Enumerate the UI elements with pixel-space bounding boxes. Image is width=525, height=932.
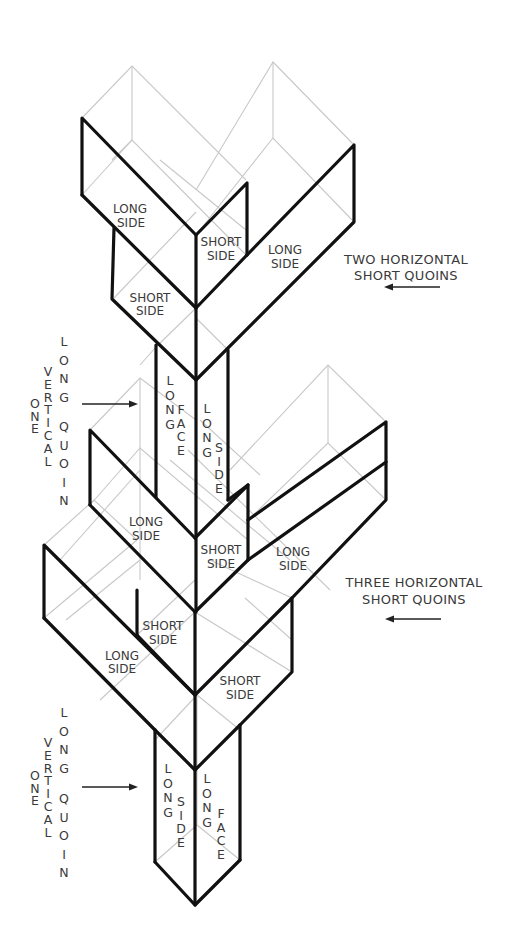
upper-vertical-annot-quoin: QUOIN [59,419,69,508]
upper-vertical-annot-long-letter: L [61,334,68,349]
lower-shaft-right-face-word1-letter: G [202,815,212,830]
lower-vertical-annot-one-letter: E [31,793,39,808]
hidden-construction-lines [44,62,386,862]
lower-shaft-left-face-word2-letter: E [177,835,185,850]
upper-vertical-annot-vertical-letter: L [45,454,52,469]
lower-tier-labels: SHORT SIDE LONG SIDE SHORT SIDE [105,619,261,702]
upper-vertical-annot-quoin-letter: I [62,475,66,490]
label-lower-left-long-2: SIDE [108,662,136,676]
upper-shaft-left-face-word2-letter: E [177,443,185,458]
upper-vertical-annot-vertical: VERTICAL [43,364,53,469]
label-middle-center-short-1: SHORT [201,543,243,557]
upper-vertical-annot-long-letter: O [59,353,69,368]
lower-vertical-annot-quoin-letter: N [59,865,68,880]
upper-vertical-annot-quoin-letter: Q [59,419,69,434]
upper-annotation-line1: TWO HORIZONTAL [343,252,469,267]
lower-shaft-left-face-word2: SIDE [176,794,186,850]
arrow-left-icon [384,284,393,291]
label-lower-right-short-1: SHORT [220,674,262,688]
upper-shaft-right-face-word1: LONG [202,401,212,460]
label-upper-left-long-1: LONG [113,202,147,216]
label-lower-left-long-1: LONG [105,649,139,663]
upper-vertical-annot-quoin-letter: N [59,493,68,508]
arrow-right-icon [129,784,138,791]
lower-shaft-right-face-word2-letter: E [217,847,225,862]
lower-vertical-annot-quoin-letter: Q [59,791,69,806]
label-middle-left-long-1: LONG [129,515,163,529]
upper-vertical-arrow [82,401,138,408]
lower-annotation-line1: THREE HORIZONTAL [345,575,483,590]
label-upper-right-long-1: LONG [268,243,302,257]
upper-shaft-right-face-word1-letter: O [202,416,212,431]
upper-shaft-left-face-word1-letter: N [165,402,174,417]
label-middle-right-long-1: LONG [276,545,310,559]
upper-shaft-right-face-word1-letter: L [204,401,211,416]
upper-shaft-left-face-word2: FACE [177,402,186,458]
lower-vertical-annot-long-letter: G [59,761,69,776]
label-lower-center-short-1: SHORT [143,619,185,633]
lower-vertical-annot-long: LONG [59,705,69,776]
label-upper-left-short-2: SIDE [136,304,164,318]
lower-shaft-left-face-word1: LONG [163,761,173,820]
lower-annotation-line2: SHORT QUOINS [362,592,466,607]
lower-shaft-left-face-word1-letter: O [163,776,173,791]
upper-shaft-right-face-word1-letter: N [202,430,211,445]
upper-shaft-left-face-word1-letter: O [165,388,175,403]
upper-vertical-annot-long: LONG [59,334,69,405]
label-lower-right-short-2: SIDE [226,688,254,702]
label-upper-left-long-2: SIDE [117,216,145,230]
upper-shaft-left-face-word1-letter: G [165,417,175,432]
lower-shaft-left-face-word1-letter: L [165,761,172,776]
lower-vertical-annot-quoin-letter: I [62,847,66,862]
label-upper-right-long-2: SIDE [271,257,299,271]
upper-vertical-annot-one-letter: E [31,421,39,436]
label-upper-center-short-2: SIDE [207,249,235,263]
label-middle-left-long-2: SIDE [132,529,160,543]
lower-vertical-arrow [82,784,138,791]
label-lower-center-short-2: SIDE [149,633,177,647]
label-upper-left-short-1: SHORT [130,291,172,305]
lower-vertical-annot-quoin: QUOIN [59,791,69,880]
upper-shaft-right-face-word2-letter: E [215,481,223,496]
upper-vertical-annot-long-letter: N [59,371,68,386]
lower-vertical-annot-long-letter: N [59,742,68,757]
lower-shaft-right-face-word1-letter: O [202,786,212,801]
upper-annotation-line2: SHORT QUOINS [354,268,458,283]
upper-shaft-left-face-word1: LONG [165,373,175,432]
upper-vertical-annot-quoin-letter: O [59,456,69,471]
quoin-diagram: LONG SIDE SHORT SIDE LONG SIDE SHORT SID… [0,0,525,932]
lower-shaft-left-face-word1-letter: G [163,805,173,820]
upper-annotation-arrow [384,284,440,291]
lower-vertical-annot-long-letter: L [61,705,68,720]
lower-vertical-annot-one: ONE [30,768,40,808]
lower-vertical-annot-quoin-letter: U [59,810,68,825]
lower-shaft-right-face-word1: LONG [202,771,212,830]
upper-shaft-right-face-word2: SIDE [214,440,224,496]
arrow-left-icon [385,616,394,623]
upper-vertical-annot-long-letter: G [59,390,69,405]
lower-vertical-annot-vertical: VERTICAL [43,735,53,840]
lower-shaft-left-face-word1-letter: N [163,790,172,805]
upper-shaft-right-face-word1-letter: G [202,445,212,460]
lower-vertical-annot-quoin-letter: O [59,828,69,843]
lower-shaft-right-face-word2: FACE [217,806,226,862]
upper-vertical-annot-quoin-letter: U [59,438,68,453]
lower-annotation-arrow [385,616,441,623]
upper-vertical-annot-one: ONE [30,396,40,436]
lower-shaft-right-face-word1-letter: L [204,771,211,786]
label-middle-center-short-2: SIDE [207,557,235,571]
label-middle-right-long-2: SIDE [279,559,307,573]
arrow-right-icon [129,401,138,408]
lower-vertical-annot-vertical-letter: L [45,825,52,840]
lower-shaft-right-face-word1-letter: N [202,800,211,815]
upper-shaft-left-face-word1-letter: L [167,373,174,388]
label-upper-center-short-1: SHORT [201,235,243,249]
lower-vertical-annot-long-letter: O [59,724,69,739]
